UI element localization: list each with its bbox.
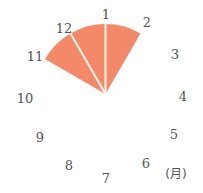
month-label-3: 3 bbox=[171, 47, 179, 62]
month-clock-chart: 123456789101112 (月) bbox=[0, 0, 203, 193]
month-label-1: 1 bbox=[102, 7, 110, 22]
month-label-7: 7 bbox=[102, 171, 110, 186]
unit-label: (月) bbox=[165, 167, 186, 181]
month-label-12: 12 bbox=[56, 21, 73, 36]
month-label-5: 5 bbox=[170, 127, 178, 142]
month-label-6: 6 bbox=[142, 156, 150, 171]
month-label-11: 11 bbox=[27, 49, 44, 64]
month-label-8: 8 bbox=[65, 158, 73, 173]
sector-1-2 bbox=[106, 24, 141, 94]
month-label-10: 10 bbox=[17, 91, 34, 106]
month-label-9: 9 bbox=[36, 130, 44, 145]
month-label-2: 2 bbox=[143, 15, 151, 30]
month-label-4: 4 bbox=[179, 89, 187, 104]
